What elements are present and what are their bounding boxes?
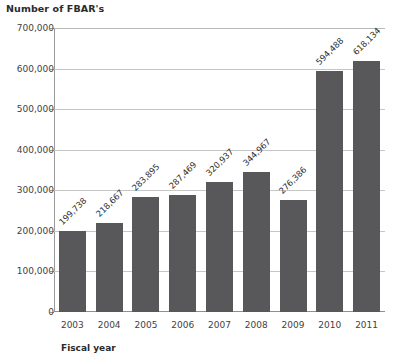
y-tick-label: 300,000 — [17, 185, 54, 195]
bar[interactable] — [169, 195, 196, 312]
bar-value-label: 344,967 — [241, 137, 272, 168]
bar-slot: 287,469 — [169, 28, 196, 312]
bar-value-label: 283,895 — [130, 161, 161, 192]
x-tick-label-2007: 2007 — [201, 320, 238, 330]
bar-value-label: 618,134 — [351, 26, 382, 57]
bar-slot: 594,488 — [316, 28, 343, 312]
bar-value-label: 287,469 — [167, 160, 198, 191]
y-tick-label: 600,000 — [17, 64, 54, 74]
bar-slot: 283,895 — [132, 28, 159, 312]
bar[interactable] — [243, 172, 270, 312]
bar[interactable] — [316, 71, 343, 312]
bar-slot: 276,386 — [280, 28, 307, 312]
bar[interactable] — [280, 200, 307, 312]
bar-value-label: 199,738 — [57, 196, 88, 227]
x-tick-label-2004: 2004 — [91, 320, 128, 330]
x-tick-label-2011: 2011 — [348, 320, 385, 330]
y-tick-label: 400,000 — [17, 145, 54, 155]
x-tick-label-2008: 2008 — [238, 320, 275, 330]
bar-slot: 199,738 — [59, 28, 86, 312]
bar-slot: 344,967 — [243, 28, 270, 312]
x-tick-label-2006: 2006 — [164, 320, 201, 330]
bar[interactable] — [59, 231, 86, 312]
y-tick-label: 500,000 — [17, 104, 54, 114]
bar-value-label: 276,386 — [277, 164, 308, 195]
bar-value-label: 594,488 — [314, 35, 345, 66]
x-axis-title: Fiscal year — [61, 343, 116, 353]
y-tick-label: 700,000 — [17, 23, 54, 33]
bar-slot: 320,937 — [206, 28, 233, 312]
bar-value-label: 218,667 — [93, 188, 124, 219]
x-tick-label-2010: 2010 — [311, 320, 348, 330]
bars-container: 199,738218,667283,895287,469320,937344,9… — [54, 28, 385, 312]
bar-slot: 218,667 — [96, 28, 123, 312]
bar[interactable] — [96, 223, 123, 312]
bar-chart: Number of FBAR's 700,000600,000500,00040… — [0, 0, 393, 364]
y-tick-label: 100,000 — [17, 266, 54, 276]
y-tick-label: 200,000 — [17, 226, 54, 236]
bar[interactable] — [206, 182, 233, 312]
bar-slot: 618,134 — [353, 28, 380, 312]
bar[interactable] — [353, 61, 380, 312]
x-tick-label-2009: 2009 — [275, 320, 312, 330]
bar-value-label: 320,937 — [204, 146, 235, 177]
x-tick-label-2005: 2005 — [128, 320, 165, 330]
x-tick-label-2003: 2003 — [54, 320, 91, 330]
bar[interactable] — [132, 197, 159, 312]
chart-title: Number of FBAR's — [6, 3, 104, 14]
